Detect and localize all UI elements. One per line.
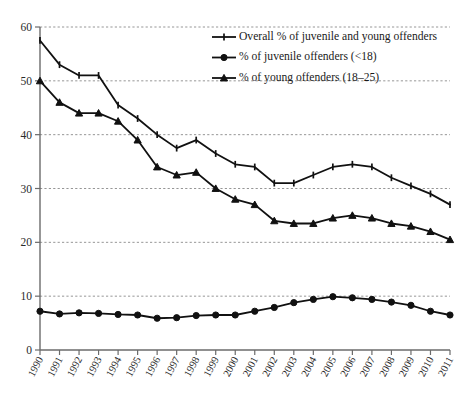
y-axis-tick-label: 0: [26, 344, 32, 356]
x-axis-tick-label: 1990: [26, 355, 46, 379]
x-axis-tick-label: 2002: [260, 355, 280, 379]
x-axis-tick-label: 2000: [221, 355, 241, 379]
x-axis-tick-label: 2011: [436, 355, 455, 378]
data-point-marker: [193, 312, 199, 318]
data-point-marker: [213, 312, 219, 318]
data-point-marker: [232, 196, 239, 203]
data-point-marker: [427, 308, 433, 314]
x-axis-tick-label: 1998: [182, 355, 202, 379]
data-point-marker: [95, 310, 101, 316]
gridlines: 0102030405060: [21, 21, 451, 356]
x-axis-tick-label: 1993: [84, 355, 104, 379]
x-axis-tick-label: 2005: [319, 355, 339, 379]
data-point-marker: [349, 295, 355, 301]
x-axis-tick-label: 2004: [299, 354, 319, 378]
data-point-marker: [174, 315, 180, 321]
x-axis-tick-label: 1997: [162, 355, 182, 379]
data-point-marker: [310, 296, 316, 302]
x-axis-tick-label: 1991: [45, 355, 65, 379]
x-axis-tick-label: 1992: [65, 355, 85, 379]
data-point-marker: [154, 315, 160, 321]
series-line: [40, 40, 450, 204]
legend-item[interactable]: % of juvenile offenders (<18): [212, 50, 377, 63]
data-point-marker: [76, 310, 82, 316]
legend-label: Overall % of juvenile and young offender…: [239, 30, 438, 43]
x-axis-tick-label: 1999: [201, 355, 221, 379]
x-axis-tick-label: 2001: [240, 355, 260, 379]
y-axis-tick-label: 20: [21, 236, 33, 248]
data-point-marker: [291, 300, 297, 306]
x-axis-tick-label: 1995: [123, 355, 143, 379]
data-point-marker: [56, 311, 62, 317]
data-point-marker: [135, 312, 141, 318]
x-axis-tick-label: 2009: [397, 355, 417, 379]
x-axis-tick-label: 1994: [104, 354, 124, 378]
data-point-marker: [221, 54, 227, 60]
x-axis-tick-label: 2007: [358, 355, 378, 379]
y-axis-tick-label: 30: [21, 183, 33, 195]
series-line: [40, 81, 450, 240]
y-axis-tick-label: 50: [21, 75, 33, 87]
series-3: [36, 77, 453, 242]
data-point-marker: [232, 312, 238, 318]
x-axis-tick-label: 2008: [377, 355, 397, 379]
y-axis-tick-label: 60: [21, 21, 33, 33]
data-point-marker: [271, 304, 277, 310]
legend-label: % of juvenile offenders (<18): [239, 50, 377, 63]
legend-label: % of young offenders (18–25): [239, 71, 379, 84]
x-axis-tick-label: 2010: [416, 355, 436, 379]
series-2: [37, 294, 453, 322]
data-point-marker: [252, 308, 258, 314]
legend-item[interactable]: Overall % of juvenile and young offender…: [212, 30, 438, 43]
line-chart: 0102030405060199019911992199319941995199…: [0, 0, 456, 405]
data-point-marker: [447, 312, 453, 318]
data-point-marker: [115, 311, 121, 317]
legend: Overall % of juvenile and young offender…: [212, 30, 438, 84]
x-axis-tick-label: 2003: [280, 355, 300, 379]
data-point-marker: [369, 296, 375, 302]
x-axis-labels: 1990199119921993199419951996199719981999…: [26, 350, 456, 378]
x-axis-tick-label: 1996: [143, 355, 163, 379]
chart-canvas: 0102030405060199019911992199319941995199…: [0, 0, 456, 405]
y-axis-tick-label: 40: [21, 129, 33, 141]
y-axis-tick-label: 10: [21, 290, 33, 302]
data-point-marker: [37, 308, 43, 314]
legend-item[interactable]: % of young offenders (18–25): [212, 71, 379, 84]
x-axis-tick-label: 2006: [338, 355, 358, 379]
data-point-marker: [408, 302, 414, 308]
data-point-marker: [388, 299, 394, 305]
data-point-marker: [330, 294, 336, 300]
